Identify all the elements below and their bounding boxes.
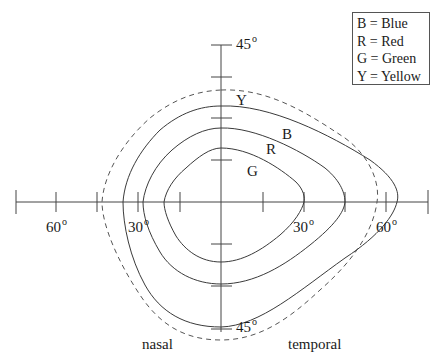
axis-label-left-30: 30o [128,219,149,236]
axis-value: 30 [128,219,143,235]
region-label-temporal: temporal [288,336,341,353]
legend-item-red: R = Red [357,33,429,51]
yellow-isopter-dashed [102,90,378,340]
degree-symbol: o [62,216,67,227]
axis-value: 60 [376,219,391,235]
axis-value: 60 [46,219,61,235]
axis-label-bottom-45: 45o [236,319,257,336]
axis-value: 30 [293,219,308,235]
curve-label-blue: B [282,126,292,143]
axis-label-right-30: 30o [293,219,314,236]
degree-symbol: o [309,216,314,227]
axis-value: 45 [236,36,251,52]
legend-item-blue: B = Blue [357,15,429,33]
axis-label-top-45: 45o [236,36,257,53]
axis-label-left-60: 60o [46,219,67,236]
axis-label-right-60: 60o [376,219,397,236]
curve-label-green: G [247,163,258,180]
region-label-nasal: nasal [142,336,173,353]
degree-symbol: o [144,216,149,227]
degree-symbol: o [252,33,257,44]
legend-item-green: G = Green [357,50,429,68]
green-isopter [164,148,304,262]
blue-isopter [123,106,398,327]
legend-item-yellow: Y = Yellow [357,68,429,86]
legend: B = Blue R = Red G = Green Y = Yellow [352,12,430,85]
degree-symbol: o [392,216,397,227]
curve-label-yellow: Y [236,92,247,109]
axis-value: 45 [236,319,251,335]
degree-symbol: o [252,316,257,327]
curve-label-red: R [266,141,276,158]
